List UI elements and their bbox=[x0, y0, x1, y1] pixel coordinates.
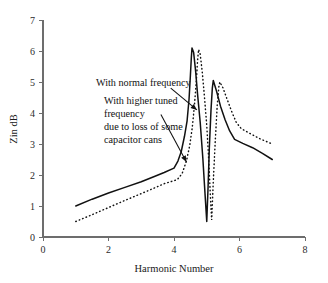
annotation-higher-tuned-line1: With higher tuned bbox=[104, 95, 178, 106]
y-axis-title: Zin dB bbox=[8, 114, 19, 143]
y-axis-ticks: 01234567 bbox=[30, 15, 43, 243]
x-axis-title: Harmonic Number bbox=[134, 263, 214, 274]
y-tick-label: 1 bbox=[30, 201, 35, 212]
y-tick-label: 6 bbox=[30, 46, 35, 57]
x-tick-label: 8 bbox=[303, 244, 308, 255]
x-tick-label: 4 bbox=[172, 244, 177, 255]
y-tick-label: 0 bbox=[30, 232, 35, 243]
y-tick-label: 7 bbox=[30, 15, 35, 26]
annotation-higher-tuned-line4: capacitor cans bbox=[104, 134, 162, 145]
y-tick-label: 4 bbox=[30, 108, 35, 119]
x-tick-label: 2 bbox=[106, 244, 111, 255]
x-tick-label: 0 bbox=[41, 244, 46, 255]
annotation-normal-frequency: With normal frequency bbox=[96, 77, 192, 88]
annotation-higher-tuned-line2: frequency bbox=[104, 108, 146, 119]
chart-figure: 01234567 02468 With normal frequency Wit… bbox=[0, 0, 328, 283]
chart-plot-area: 01234567 02468 With normal frequency Wit… bbox=[0, 0, 328, 283]
y-tick-label: 5 bbox=[30, 77, 35, 88]
annotation-higher-tuned-line3: due to loss of some bbox=[104, 121, 183, 132]
y-tick-label: 2 bbox=[30, 170, 35, 181]
x-tick-label: 6 bbox=[237, 244, 242, 255]
y-tick-label: 3 bbox=[30, 139, 35, 150]
x-axis-ticks: 02468 bbox=[41, 237, 308, 255]
